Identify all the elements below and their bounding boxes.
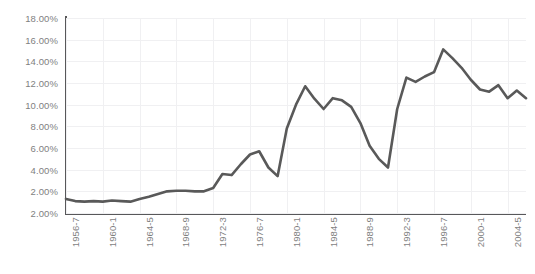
y-tick-label: 4.00% (31, 164, 58, 175)
chart-container: 18.00%16.00%14.00%12.00%10.00%8.00%6.00%… (0, 0, 535, 274)
y-tick-label: 10.00% (25, 99, 58, 110)
x-tick-label: 1984-5 (328, 217, 339, 247)
y-tick-label: 16.00% (25, 34, 58, 45)
y-tick-label: 2.00% (31, 208, 58, 219)
x-tick-label: 1976-7 (254, 217, 265, 247)
y-tick-label: 14.00% (25, 56, 58, 67)
y-tick-label: 18.00% (25, 13, 58, 24)
x-tick-label: 1988-9 (364, 217, 375, 247)
y-tick-label: 8.00% (31, 121, 58, 132)
plot-area (66, 18, 526, 213)
x-tick-label: 1980-1 (291, 217, 302, 247)
line-series (66, 18, 526, 213)
y-axis: 18.00%16.00%14.00%12.00%10.00%8.00%6.00%… (0, 0, 66, 274)
x-tick-label: 1992-3 (401, 217, 412, 247)
x-tick-label: 1972-3 (217, 217, 228, 247)
x-tick-label: 1996-7 (438, 217, 449, 247)
x-tick-label: 2004-5 (512, 217, 523, 247)
x-tick-label: 1968-9 (180, 217, 191, 247)
y-tick-label: 2.00% (31, 186, 58, 197)
y-tick-label: 6.00% (31, 143, 58, 154)
x-axis: 1956-71960-11964-51968-91972-31976-71980… (66, 215, 526, 274)
x-tick-label: 1960-1 (107, 217, 118, 247)
series-polyline (66, 49, 526, 201)
x-tick-label: 2000-1 (475, 217, 486, 247)
x-tick-label: 1964-5 (144, 217, 155, 247)
y-tick-label: 12.00% (25, 78, 58, 89)
x-tick-label: 1956-7 (70, 217, 81, 247)
gridline-horizontal (66, 213, 526, 214)
